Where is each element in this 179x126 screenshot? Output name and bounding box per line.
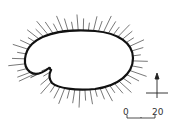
scale-start-label: 0 — [123, 108, 129, 117]
notch-marker-icon — [49, 67, 51, 69]
compass-cross-icon — [146, 73, 168, 98]
scale-end-label: 20 — [152, 108, 163, 117]
cell-outline — [25, 30, 133, 89]
radial-spikes — [8, 15, 148, 108]
diagram-canvas: 0 20 — [0, 0, 179, 126]
scale-bar — [127, 115, 155, 118]
